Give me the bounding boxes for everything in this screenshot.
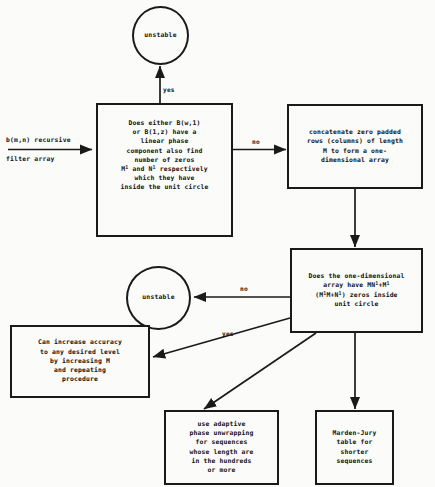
- edge-label-no-top: no: [252, 138, 260, 145]
- input-label-line2: filter array: [6, 155, 55, 163]
- node-adaptive-phase[interactable]: use adaptivephase unwrappingfor sequence…: [164, 410, 279, 485]
- edge-label-yes-top: yes: [163, 86, 175, 93]
- flowchart-canvas: b(m,n) recursive filter array unstable D…: [0, 0, 435, 487]
- edge-label-no-mid: no: [240, 285, 248, 292]
- node-marden-jury[interactable]: Marden-Jurytable forshortersequences: [315, 410, 394, 485]
- node-decision-one-dimensional-label: Does the one-dimensionalarray have MN1+M…: [307, 272, 407, 309]
- node-decision-linear-phase-label: Does either B(w,1)or B(1,z) have alinear…: [119, 119, 211, 193]
- node-decision-linear-phase[interactable]: Does either B(w,1)or B(1,z) have alinear…: [96, 103, 233, 237]
- edge-decision2-to-adaptive: [204, 333, 316, 409]
- node-unstable-mid-label: unstable: [140, 293, 176, 302]
- node-unstable-top[interactable]: unstable: [132, 6, 189, 65]
- node-adaptive-phase-label: use adaptivephase unwrappingfor sequence…: [188, 420, 256, 475]
- node-marden-jury-label: Marden-Jurytable forshortersequences: [331, 429, 379, 466]
- edge-label-yes-mid: yes: [222, 330, 234, 337]
- node-unstable-mid[interactable]: unstable: [126, 266, 191, 330]
- node-increase-accuracy[interactable]: Can increase accuracyto any desired leve…: [10, 325, 150, 398]
- input-label-line1: b(m,n) recursive: [6, 136, 71, 144]
- node-decision-one-dimensional[interactable]: Does the one-dimensionalarray have MN1+M…: [290, 248, 423, 333]
- node-increase-accuracy-label: Can increase accuracyto any desired leve…: [36, 338, 124, 384]
- node-concatenate[interactable]: concatenate zero paddedrows (columns) of…: [287, 104, 423, 189]
- node-concatenate-label: concatenate zero paddedrows (columns) of…: [305, 128, 405, 165]
- node-unstable-top-label: unstable: [142, 31, 178, 40]
